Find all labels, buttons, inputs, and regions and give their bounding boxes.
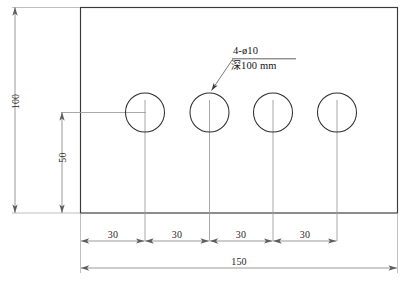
overall-width-value: 150: [231, 256, 247, 267]
hole-height-value: 50: [57, 152, 68, 162]
callout-line-1-text: 4-ø10: [233, 45, 258, 56]
spacing-1-value: 30: [108, 229, 118, 240]
drawing-canvas: [0, 0, 404, 283]
plate-outline: [81, 8, 398, 214]
dimension-label-spacing-2: 30: [162, 229, 192, 240]
callout-depth-symbol: 深: [231, 60, 241, 71]
spacing-4-value: 30: [300, 229, 310, 240]
spacing-3-value: 30: [236, 229, 246, 240]
dimension-label-overall-height: 100: [10, 87, 21, 117]
dimension-label-spacing-3: 30: [226, 229, 256, 240]
callout-line-1: 4-ø10: [233, 45, 258, 56]
engineering-drawing: 4-ø10 深100 mm 100 50 30 30 30 30 150: [0, 0, 404, 283]
callout-line-2: 深100 mm: [231, 57, 276, 72]
spacing-2-value: 30: [172, 229, 182, 240]
dimension-label-overall-width: 150: [224, 256, 254, 267]
dimension-label-spacing-1: 30: [98, 229, 128, 240]
dimension-label-spacing-4: 30: [290, 229, 320, 240]
overall-height-value: 100: [10, 94, 21, 110]
dimension-label-hole-height: 50: [57, 143, 68, 173]
callout-depth-value: 100 mm: [241, 60, 276, 71]
